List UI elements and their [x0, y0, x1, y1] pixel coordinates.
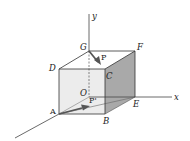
label-f: F	[136, 42, 144, 52]
label-b: B	[102, 116, 109, 126]
z-axis	[15, 114, 59, 138]
label-x-axis: x	[174, 92, 179, 102]
force-p-arrow	[89, 51, 101, 65]
label-o: O	[80, 88, 87, 98]
label-y-axis: y	[91, 11, 97, 21]
label-p: P	[101, 53, 107, 62]
label-p-prime: P'	[89, 96, 97, 105]
cube-diagram: y x G F D C O E A B P P'	[0, 0, 190, 141]
label-d: D	[48, 63, 56, 73]
label-g: G	[80, 42, 87, 52]
label-e: E	[132, 99, 140, 109]
label-c: C	[106, 71, 113, 81]
label-a: A	[49, 107, 56, 116]
